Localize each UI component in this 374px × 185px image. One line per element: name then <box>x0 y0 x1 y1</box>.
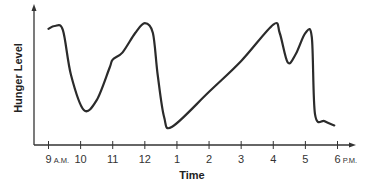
x-tick-label: 3 <box>238 153 244 165</box>
y-axis-arrow-icon <box>32 4 37 11</box>
x-axis-title: Time <box>179 169 204 181</box>
x-tick-label: 11 <box>107 153 118 165</box>
x-tick-label: 9A.M. <box>46 153 70 165</box>
x-tick-label: 1 <box>174 153 180 165</box>
hunger-chart: 9A.M.101112123456P.M. Time Hunger Level <box>0 0 374 185</box>
x-axis-arrow-icon <box>349 143 356 148</box>
x-tick-label: 12 <box>139 153 151 165</box>
x-tick-label: 6P.M. <box>335 153 358 165</box>
x-tick-label: 10 <box>74 153 86 165</box>
x-tick-labels: 9A.M.101112123456P.M. <box>46 153 358 165</box>
x-tick-label: 5 <box>302 153 308 165</box>
y-axis-title: Hunger Level <box>12 43 24 113</box>
x-tick-label: 2 <box>206 153 212 165</box>
x-tick-label: 4 <box>270 153 276 165</box>
axes <box>32 4 357 148</box>
hunger-line <box>49 23 335 128</box>
